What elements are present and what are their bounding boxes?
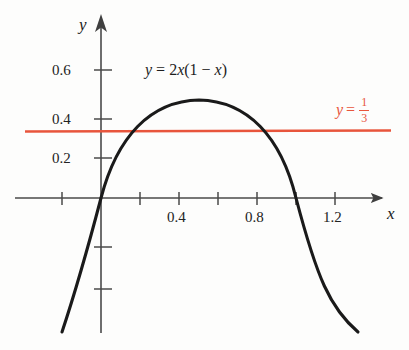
y-tick-label-0.4: 0.4	[52, 112, 71, 127]
curve-equation-label: y = 2x(1 − x)	[145, 62, 227, 78]
curve-eq-coef: = 2	[152, 61, 177, 78]
parabola-series	[62, 100, 358, 332]
x-tick-label-0.4: 0.4	[167, 210, 186, 225]
fraction-one-third: 1 3	[359, 96, 369, 124]
curve-eq-x2: x	[215, 61, 222, 78]
x-tick-label-1.2: 1.2	[323, 210, 342, 225]
line-equation-label: y = 1 3	[336, 96, 369, 124]
fraction-denominator: 3	[359, 112, 369, 125]
line-eq-y: y	[336, 102, 343, 118]
y-axis-label: y	[79, 16, 87, 33]
curve-eq-open: (1 −	[184, 61, 214, 78]
x-axis-label: x	[387, 205, 395, 222]
x-tick-label-0.8: 0.8	[245, 210, 264, 225]
y-axis-ticks	[94, 70, 112, 289]
plot-area	[0, 0, 409, 350]
horizontal-line-series	[25, 131, 391, 132]
line-eq-equals: =	[346, 102, 355, 118]
fraction-numerator: 1	[359, 96, 369, 109]
y-tick-label-0.2: 0.2	[52, 151, 71, 166]
curve-eq-close: )	[222, 61, 227, 78]
figure-canvas: 0.6 0.4 0.2 0.4 0.8 1.2 y x y = 2x(1 − x…	[0, 0, 409, 350]
y-tick-label-0.6: 0.6	[52, 63, 71, 78]
